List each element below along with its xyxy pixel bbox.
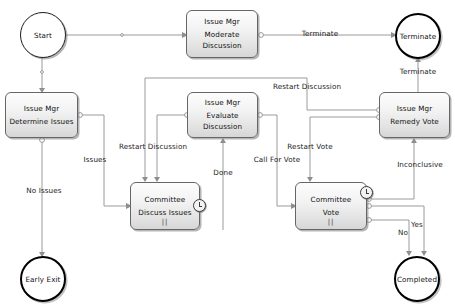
- node-committee-vote[interactable]: Committee Vote ||: [295, 182, 367, 230]
- node-moderate-discussion-label: Moderate Discussion: [202, 30, 241, 51]
- edge-label-call-for-vote: Call For Vote: [254, 155, 301, 164]
- edge-label-terminate-top: Terminate: [302, 29, 339, 38]
- edge-label-terminate-up: Terminate: [400, 67, 437, 76]
- timer-icon[interactable]: [193, 199, 206, 212]
- timer-icon[interactable]: [360, 186, 373, 199]
- edge-remedy-to-discuss: [142, 78, 381, 182]
- node-completed[interactable]: Completed: [394, 256, 440, 302]
- node-moderate-discussion-label-line2: Discussion: [202, 41, 241, 50]
- node-committee-vote-subprocess-marker: ||: [328, 219, 335, 226]
- node-evaluate-discussion[interactable]: Issue Mgr Evaluate Discussion: [187, 92, 258, 138]
- node-determine-issues-lane: Issue Mgr: [24, 104, 60, 113]
- node-moderate-discussion[interactable]: Issue Mgr Moderate Discussion: [186, 10, 258, 58]
- node-determine-issues[interactable]: Issue Mgr Determine Issues: [5, 92, 78, 138]
- node-completed-label: Completed: [397, 275, 437, 284]
- edge-vote-to-completed-no: [367, 218, 412, 256]
- node-terminate[interactable]: Terminate: [395, 13, 441, 59]
- node-discuss-issues-lane: Committee: [145, 195, 186, 204]
- edge-label-issues: Issues: [84, 155, 107, 164]
- node-determine-issues-label: Determine Issues: [9, 117, 73, 126]
- node-start[interactable]: Start: [20, 12, 66, 58]
- edge-label-restart-discussion-top: Restart Discussion: [273, 82, 341, 91]
- edge-label-no-issues: No Issues: [26, 186, 61, 195]
- node-remedy-vote-label: Remedy Vote: [390, 117, 439, 126]
- node-early-exit-label: Early Exit: [25, 275, 60, 284]
- edge-label-inconclusive: Inconclusive: [397, 160, 443, 169]
- edge-label-yes: Yes: [411, 220, 423, 229]
- edge-start-to-moderate: [66, 32, 188, 38]
- edge-determine-to-earlyexit: [39, 138, 45, 257]
- node-evaluate-discussion-label-line2: Discussion: [203, 122, 242, 131]
- edge-discuss-to-evaluate: [220, 138, 226, 230]
- node-start-label: Start: [34, 31, 52, 40]
- flowchart-canvas: Start Issue Mgr Moderate Discussion Term…: [0, 0, 455, 305]
- node-evaluate-discussion-label-line1: Evaluate: [206, 111, 238, 120]
- node-moderate-discussion-label-line1: Moderate: [205, 30, 240, 39]
- edge-vote-to-remedy: [367, 138, 417, 201]
- node-evaluate-discussion-lane: Issue Mgr: [205, 98, 241, 107]
- node-discuss-issues[interactable]: Committee Discuss Issues ||: [130, 182, 200, 230]
- node-discuss-issues-label: Discuss Issues: [138, 208, 191, 217]
- edge-label-done: Done: [213, 168, 232, 177]
- node-early-exit[interactable]: Early Exit: [20, 256, 66, 302]
- edge-vote-to-completed-yes: [367, 204, 427, 256]
- node-committee-vote-lane: Committee: [311, 195, 352, 204]
- edge-label-no: No: [398, 228, 408, 237]
- node-discuss-issues-subprocess-marker: ||: [162, 219, 169, 226]
- node-remedy-vote-lane: Issue Mgr: [397, 104, 433, 113]
- node-terminate-label: Terminate: [400, 32, 437, 41]
- node-remedy-vote[interactable]: Issue Mgr Remedy Vote: [379, 92, 450, 138]
- node-moderate-discussion-lane: Issue Mgr: [204, 17, 240, 26]
- edge-label-restart-vote: Restart Vote: [287, 142, 332, 151]
- node-committee-vote-label: Vote: [323, 208, 339, 217]
- edge-label-restart-discussion: Restart Discussion: [119, 142, 187, 151]
- node-evaluate-discussion-label: Evaluate Discussion: [203, 111, 242, 132]
- edge-start-to-determine: [39, 58, 45, 93]
